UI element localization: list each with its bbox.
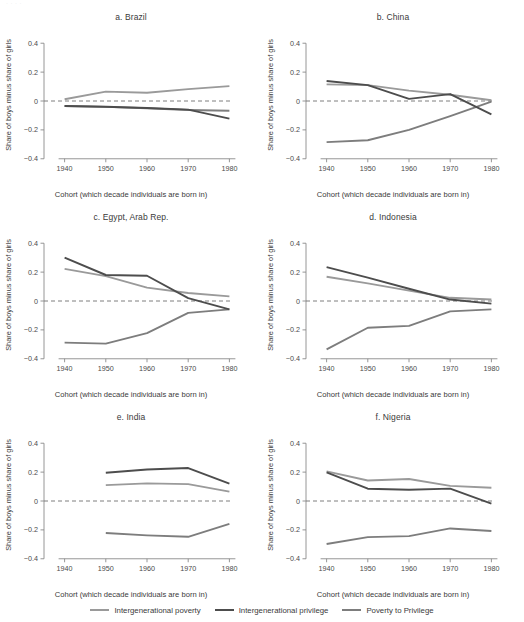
x-tick-label: 1950	[98, 164, 114, 173]
series-line	[106, 524, 230, 537]
legend-label: Intergenerational poverty	[114, 606, 200, 615]
x-tick-label: 1960	[401, 564, 417, 573]
series-line	[65, 86, 230, 99]
y-tick-label: −0.4	[286, 154, 300, 163]
x-tick-label: 1940	[57, 164, 73, 173]
x-tick-label: 1950	[360, 364, 376, 373]
x-tick-label: 1970	[180, 164, 196, 173]
y-tick-label: 0.2	[290, 68, 300, 77]
y-tick-label: 0	[296, 97, 300, 106]
x-tick-label: 1980	[483, 564, 499, 573]
chart-panel: f. NigeriaShare of boys minus share of g…	[262, 406, 524, 606]
y-tick-label: −0.4	[286, 554, 300, 563]
x-tick-label: 1950	[360, 164, 376, 173]
y-tick-label: −0.2	[24, 125, 38, 134]
y-tick-label: −0.4	[24, 354, 38, 363]
series-line	[327, 309, 492, 349]
legend-item[interactable]: Intergenerational poverty	[90, 606, 200, 615]
x-tick-label: 1940	[319, 164, 335, 173]
x-tick-label: 1940	[57, 364, 73, 373]
y-tick-label: 0	[34, 97, 38, 106]
x-tick-label: 1980	[483, 164, 499, 173]
series-line	[65, 309, 230, 343]
series-line	[327, 471, 492, 487]
plot-area: 0.40.20−0.2−0.419401950196019701980	[262, 206, 524, 406]
series-line	[327, 528, 492, 544]
y-tick-label: −0.4	[286, 354, 300, 363]
y-tick-label: −0.4	[24, 554, 38, 563]
panel-grid: a. BrazilShare of boys minus share of gi…	[0, 6, 524, 602]
series-line	[106, 468, 230, 484]
chart-panel: b. ChinaShare of boys minus share of gir…	[262, 6, 524, 206]
y-tick-label: 0	[34, 497, 38, 506]
x-tick-label: 1970	[180, 364, 196, 373]
series-line	[65, 106, 230, 119]
y-tick-label: 0.4	[28, 439, 38, 448]
x-tick-label: 1950	[360, 564, 376, 573]
x-tick-label: 1940	[57, 564, 73, 573]
y-tick-label: 0.4	[290, 39, 300, 48]
y-tick-label: 0	[296, 297, 300, 306]
x-tick-label: 1980	[483, 364, 499, 373]
legend-swatch-icon	[90, 609, 109, 611]
y-tick-label: 0.2	[28, 68, 38, 77]
y-tick-label: −0.2	[286, 325, 300, 334]
y-tick-label: 0.2	[28, 468, 38, 477]
x-tick-label: 1960	[139, 364, 155, 373]
axes: 0.40.20−0.2−0.419401950196019701980	[286, 439, 500, 573]
x-tick-label: 1960	[401, 164, 417, 173]
plot-area: 0.40.20−0.2−0.419401950196019701980	[262, 6, 524, 206]
legend-swatch-icon	[342, 609, 361, 611]
legend-item[interactable]: Poverty to Privilege	[342, 606, 433, 615]
y-tick-label: 0.2	[290, 268, 300, 277]
x-tick-label: 1970	[180, 564, 196, 573]
legend-label: Intergenerational privilege	[239, 606, 329, 615]
series-line	[65, 258, 230, 310]
axes: 0.40.20−0.2−0.419401950196019701980	[24, 439, 238, 573]
y-tick-label: 0	[34, 297, 38, 306]
chart-panel: e. IndiaShare of boys minus share of gir…	[0, 406, 262, 606]
y-tick-label: −0.2	[286, 525, 300, 534]
y-tick-label: 0.4	[28, 39, 38, 48]
y-tick-label: 0.2	[290, 468, 300, 477]
figure-root: · · · · a. BrazilShare of boys minus sha…	[0, 0, 524, 622]
chart-panel: a. BrazilShare of boys minus share of gi…	[0, 6, 262, 206]
plot-area: 0.40.20−0.2−0.419401950196019701980	[0, 206, 262, 406]
x-tick-label: 1980	[221, 564, 237, 573]
x-tick-label: 1940	[319, 364, 335, 373]
y-tick-label: −0.4	[24, 154, 38, 163]
plot-area: 0.40.20−0.2−0.419401950196019701980	[262, 406, 524, 606]
x-tick-label: 1970	[442, 364, 458, 373]
x-tick-label: 1960	[139, 164, 155, 173]
x-tick-label: 1980	[221, 364, 237, 373]
x-tick-label: 1950	[98, 564, 114, 573]
y-tick-label: −0.2	[24, 325, 38, 334]
plot-area: 0.40.20−0.2−0.419401950196019701980	[0, 406, 262, 606]
x-tick-label: 1960	[401, 364, 417, 373]
x-tick-label: 1970	[442, 164, 458, 173]
chart-legend: Intergenerational povertyIntergeneration…	[0, 600, 524, 620]
plot-area: 0.40.20−0.2−0.419401950196019701980	[0, 6, 262, 206]
x-tick-label: 1980	[221, 164, 237, 173]
chart-panel: d. IndonesiaShare of boys minus share of…	[262, 206, 524, 406]
y-tick-label: −0.2	[24, 525, 38, 534]
y-tick-label: −0.2	[286, 125, 300, 134]
legend-item[interactable]: Intergenerational privilege	[215, 606, 329, 615]
y-tick-label: 0.4	[290, 439, 300, 448]
series-line	[327, 102, 492, 142]
series-line	[65, 269, 230, 296]
axes: 0.40.20−0.2−0.419401950196019701980	[286, 239, 500, 373]
x-tick-label: 1960	[139, 564, 155, 573]
y-tick-label: 0.2	[28, 268, 38, 277]
legend-swatch-icon	[215, 609, 234, 611]
x-tick-label: 1970	[442, 564, 458, 573]
axes: 0.40.20−0.2−0.419401950196019701980	[286, 39, 500, 173]
legend-label: Poverty to Privilege	[366, 606, 433, 615]
x-tick-label: 1940	[319, 564, 335, 573]
y-tick-label: 0	[296, 497, 300, 506]
chart-panel: c. Egypt, Arab Rep.Share of boys minus s…	[0, 206, 262, 406]
y-tick-label: 0.4	[28, 239, 38, 248]
x-tick-label: 1950	[98, 364, 114, 373]
axes: 0.40.20−0.2−0.419401950196019701980	[24, 239, 238, 373]
y-tick-label: 0.4	[290, 239, 300, 248]
